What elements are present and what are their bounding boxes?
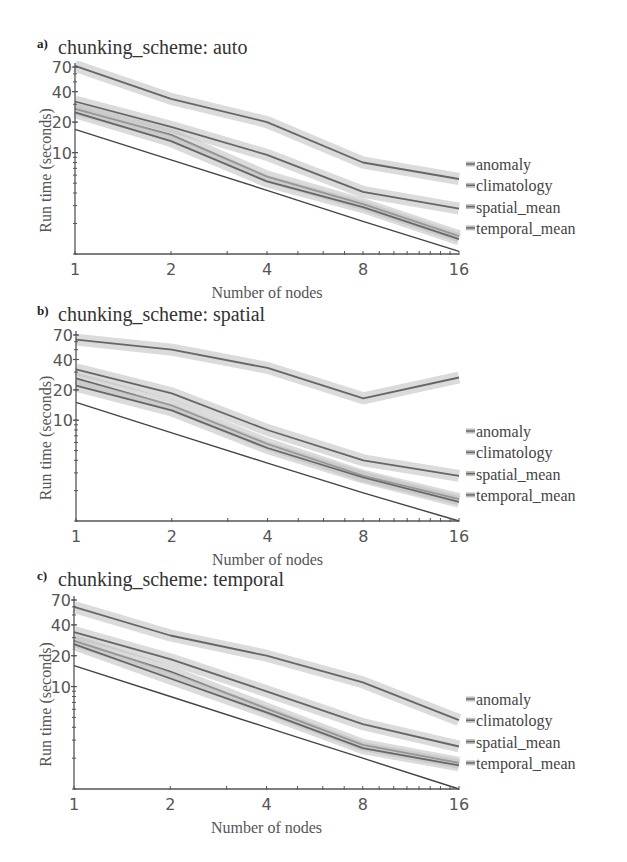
y-tick-label: 40 [51, 616, 71, 635]
legend-label: anomaly [476, 423, 531, 441]
y-tick-label: 20 [52, 113, 72, 132]
x-tick-label: 2 [166, 260, 176, 279]
legend-label: anomaly [476, 691, 531, 709]
panel-title: chunking_scheme: temporal [58, 568, 284, 591]
y-tick-label: 40 [52, 83, 72, 102]
y-axis-label: Run time (seconds) [37, 642, 55, 766]
legend-label: climatology [476, 177, 552, 195]
x-tick-label: 16 [449, 795, 469, 814]
y-tick-label: 70 [52, 58, 72, 77]
panel-letter: a) [37, 36, 48, 51]
x-tick-label: 2 [165, 795, 175, 814]
panel-letter: b) [37, 303, 49, 318]
figure: a)chunking_scheme: auto10204070124816Num… [0, 0, 627, 862]
y-tick-label: 20 [53, 381, 73, 400]
legend-label: spatial_mean [476, 199, 560, 217]
panel-c: c)chunking_scheme: temporal1020407012481… [37, 568, 576, 836]
legend-item-anomaly: anomaly [466, 691, 531, 709]
legend-label: temporal_mean [476, 487, 576, 505]
legend: anomalyclimatologyspatial_meantemporal_m… [466, 156, 576, 238]
y-axis-label: Run time (seconds) [37, 108, 55, 232]
y-axis-label: Run time (seconds) [37, 376, 55, 500]
legend-label: climatology [476, 712, 552, 730]
y-tick-label: 70 [53, 326, 73, 345]
panel-title: chunking_scheme: spatial [58, 303, 266, 326]
legend-label: spatial_mean [476, 466, 560, 484]
legend-label: temporal_mean [476, 220, 576, 238]
legend-label: climatology [476, 444, 552, 462]
series-group [75, 66, 459, 252]
x-axis-label: Number of nodes [212, 551, 323, 568]
x-tick-label: 4 [261, 795, 271, 814]
legend: anomalyclimatologyspatial_meantemporal_m… [466, 691, 576, 773]
y-tick-label: 70 [51, 591, 71, 610]
legend-label: temporal_mean [476, 755, 576, 773]
series-group [76, 340, 459, 521]
x-tick-label: 1 [71, 527, 81, 546]
x-tick-label: 4 [262, 260, 272, 279]
legend-item-spatial_mean: spatial_mean [466, 466, 560, 484]
legend-label: spatial_mean [476, 734, 560, 752]
legend-item-temporal_mean: temporal_mean [466, 755, 576, 773]
x-axis-label: Number of nodes [211, 819, 322, 836]
x-tick-label: 4 [262, 527, 272, 546]
panel-letter: c) [37, 568, 47, 583]
x-tick-label: 8 [358, 795, 368, 814]
x-tick-label: 16 [449, 527, 469, 546]
legend: anomalyclimatologyspatial_meantemporal_m… [466, 423, 576, 505]
panel-title: chunking_scheme: auto [58, 36, 247, 59]
x-tick-label: 8 [358, 260, 368, 279]
legend-item-anomaly: anomaly [466, 423, 531, 441]
legend-item-temporal_mean: temporal_mean [466, 220, 576, 238]
x-tick-label: 2 [167, 527, 177, 546]
x-tick-label: 1 [69, 795, 79, 814]
x-tick-label: 16 [449, 260, 469, 279]
series-group [74, 607, 459, 789]
ideal-scaling-line [75, 129, 459, 251]
panel-b: b)chunking_scheme: spatial10204070124816… [37, 303, 576, 568]
confidence-band-temporal_mean [76, 386, 459, 502]
y-tick-label: 10 [52, 144, 72, 163]
y-tick-label: 40 [53, 351, 73, 370]
legend-label: anomaly [476, 156, 531, 174]
x-tick-label: 1 [70, 260, 80, 279]
legend-item-climatology: climatology [466, 712, 552, 730]
x-axis-label: Number of nodes [211, 284, 322, 301]
legend-item-temporal_mean: temporal_mean [466, 487, 576, 505]
panel-a: a)chunking_scheme: auto10204070124816Num… [37, 36, 576, 301]
legend-item-climatology: climatology [466, 444, 552, 462]
legend-item-climatology: climatology [466, 177, 552, 195]
y-tick-label: 10 [53, 411, 73, 430]
legend-item-spatial_mean: spatial_mean [466, 199, 560, 217]
x-tick-label: 8 [358, 527, 368, 546]
legend-item-spatial_mean: spatial_mean [466, 734, 560, 752]
legend-item-anomaly: anomaly [466, 156, 531, 174]
